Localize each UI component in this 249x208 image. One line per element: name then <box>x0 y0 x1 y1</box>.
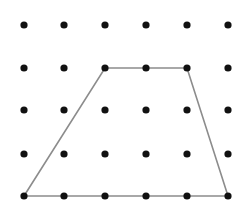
grid-dot <box>142 192 149 199</box>
grid-dot <box>60 150 67 157</box>
figure-canvas <box>0 0 249 208</box>
grid-dot <box>20 150 27 157</box>
grid-dot <box>183 106 190 113</box>
grid-dot <box>224 64 231 71</box>
grid-dot <box>101 21 108 28</box>
grid-dot <box>183 192 190 199</box>
grid-dot <box>142 21 149 28</box>
grid-dot <box>20 192 27 199</box>
grid-dot <box>60 64 67 71</box>
grid-dot <box>142 64 149 71</box>
grid-dot <box>101 106 108 113</box>
grid-dot <box>183 64 190 71</box>
grid-dot <box>224 150 231 157</box>
grid-dot <box>224 192 231 199</box>
grid-dot <box>101 64 108 71</box>
figure-background <box>0 0 249 208</box>
grid-dot <box>101 192 108 199</box>
grid-dot <box>101 150 108 157</box>
grid-dot <box>183 150 190 157</box>
grid-dot <box>183 21 190 28</box>
grid-dot <box>142 150 149 157</box>
dot-grid-figure <box>0 0 249 208</box>
grid-dot <box>60 21 67 28</box>
grid-dot <box>60 106 67 113</box>
grid-dot <box>224 21 231 28</box>
grid-dot <box>20 106 27 113</box>
grid-dot <box>20 64 27 71</box>
grid-dot <box>60 192 67 199</box>
grid-dot <box>142 106 149 113</box>
grid-dot <box>20 21 27 28</box>
grid-dot <box>224 106 231 113</box>
